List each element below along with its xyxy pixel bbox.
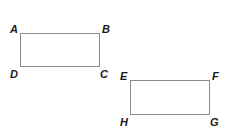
vertex-label-d: D [10,69,18,80]
vertex-label-a: A [10,24,18,35]
rectangle-abcd [20,33,100,67]
vertex-label-g: G [210,117,219,128]
rectangle-efgh [130,80,210,115]
vertex-label-h: H [120,117,128,128]
vertex-label-b: B [102,24,110,35]
vertex-label-e: E [120,71,127,82]
diagram: A B C D E F G H [0,0,228,133]
vertex-label-f: F [212,71,219,82]
vertex-label-c: C [100,69,108,80]
